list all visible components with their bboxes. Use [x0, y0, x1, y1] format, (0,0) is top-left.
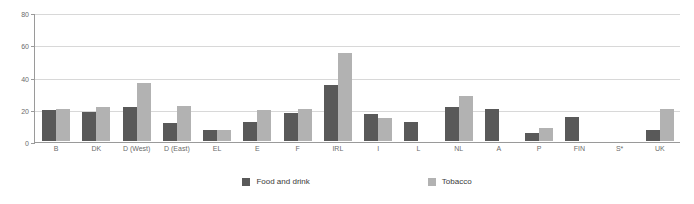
bar-group: IRL [318, 14, 358, 141]
chart-legend: Food and drinkTobacco [34, 178, 680, 186]
bar-group: FIN [559, 14, 599, 141]
bar-food [646, 130, 660, 141]
x-axis-category-label: IRL [332, 145, 343, 152]
bar-food [525, 133, 539, 141]
legend-item[interactable]: Tobacco [428, 178, 472, 186]
bar-food [42, 110, 56, 141]
bar-tobacco [378, 118, 392, 141]
x-axis-category-label: UK [655, 145, 665, 152]
bar-food [485, 109, 499, 141]
bar-food [243, 122, 257, 141]
y-axis-tick-label: 60 [21, 43, 29, 50]
x-axis-category-label: A [497, 145, 502, 152]
x-axis-category-label: L [416, 145, 420, 152]
bar-tobacco [137, 83, 151, 141]
x-axis-category-label: D (West) [123, 145, 150, 152]
legend-label: Food and drink [256, 178, 309, 186]
bar-group: S* [600, 14, 640, 141]
x-axis-category-label: EL [213, 145, 222, 152]
y-axis-tick [31, 79, 35, 80]
bar-food [203, 130, 217, 141]
bar-tobacco [96, 107, 110, 141]
bar-food [364, 114, 378, 141]
y-axis-tick-label: 0 [25, 140, 29, 147]
bar-food [82, 112, 96, 141]
bar-group: EL [197, 14, 237, 141]
bar-chart: 020406080 BDKD (West)D (East)ELEFIRLILNL… [0, 0, 694, 204]
legend-item[interactable]: Food and drink [242, 178, 309, 186]
bar-group: D (West) [117, 14, 157, 141]
legend-label: Tobacco [442, 178, 472, 186]
y-axis-tick [31, 111, 35, 112]
legend-swatch-tobacco-icon [428, 178, 436, 186]
bar-tobacco [459, 96, 473, 141]
y-axis-tick [31, 14, 35, 15]
bar-group: E [237, 14, 277, 141]
x-axis-category-label: FIN [574, 145, 585, 152]
bar-group: I [358, 14, 398, 141]
x-axis-category-label: E [255, 145, 260, 152]
bar-group: DK [76, 14, 116, 141]
bar-group: F [278, 14, 318, 141]
bar-food [404, 122, 418, 141]
x-axis-category-label: NL [454, 145, 463, 152]
bar-tobacco [298, 109, 312, 141]
bar-tobacco [539, 128, 553, 141]
y-axis-tick-label: 20 [21, 107, 29, 114]
x-axis-category-label: D (East) [164, 145, 190, 152]
bar-tobacco [257, 110, 271, 141]
bar-group: B [36, 14, 76, 141]
y-axis-tick [31, 143, 35, 144]
bar-tobacco [56, 109, 70, 141]
x-axis-category-label: I [377, 145, 379, 152]
y-axis-tick-label: 40 [21, 75, 29, 82]
bar-group: L [398, 14, 438, 141]
bar-food [163, 123, 177, 141]
bar-tobacco [338, 53, 352, 141]
plot-area: 020406080 BDKD (West)D (East)ELEFIRLILNL… [34, 14, 680, 143]
bar-group: NL [439, 14, 479, 141]
bar-food [445, 107, 459, 141]
x-axis-category-label: F [295, 145, 299, 152]
x-axis-category-label: S* [616, 145, 623, 152]
legend-swatch-food-icon [242, 178, 250, 186]
bar-tobacco [660, 109, 674, 141]
bar-groups: BDKD (West)D (East)ELEFIRLILNLAPFINS*UK [36, 14, 680, 141]
y-axis-tick [31, 46, 35, 47]
y-axis-tick-label: 80 [21, 11, 29, 18]
bar-tobacco [217, 130, 231, 141]
x-axis-category-label: DK [92, 145, 102, 152]
bar-food [284, 113, 298, 141]
bar-food [123, 107, 137, 141]
bar-food [324, 85, 338, 141]
bar-food [565, 117, 579, 141]
bar-group: A [479, 14, 519, 141]
bar-group: D (East) [157, 14, 197, 141]
bar-tobacco [177, 106, 191, 141]
bar-group: P [519, 14, 559, 141]
x-axis-category-label: B [54, 145, 59, 152]
x-axis-category-label: P [537, 145, 542, 152]
bar-group: UK [640, 14, 680, 141]
